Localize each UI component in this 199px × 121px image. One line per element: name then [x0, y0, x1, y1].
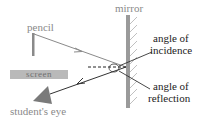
- reflection-leader: [119, 71, 150, 89]
- eye-label: student's eye: [10, 105, 66, 117]
- screen: screen: [10, 70, 68, 79]
- pencil: [32, 33, 35, 56]
- incidence-label-line1: angle of: [153, 32, 189, 44]
- incidence-leader: [119, 52, 152, 66]
- incidence-label-line2: incidence: [150, 44, 192, 56]
- eye-icon: [33, 86, 52, 104]
- mirror-label: mirror: [115, 2, 143, 14]
- reflection-label-line1: angle of: [153, 80, 189, 92]
- reflection-label-line2: reflection: [148, 92, 190, 104]
- reflected-arrowhead: [77, 78, 85, 84]
- incident-arrowhead: [74, 48, 82, 52]
- pencil-label: pencil: [27, 21, 54, 33]
